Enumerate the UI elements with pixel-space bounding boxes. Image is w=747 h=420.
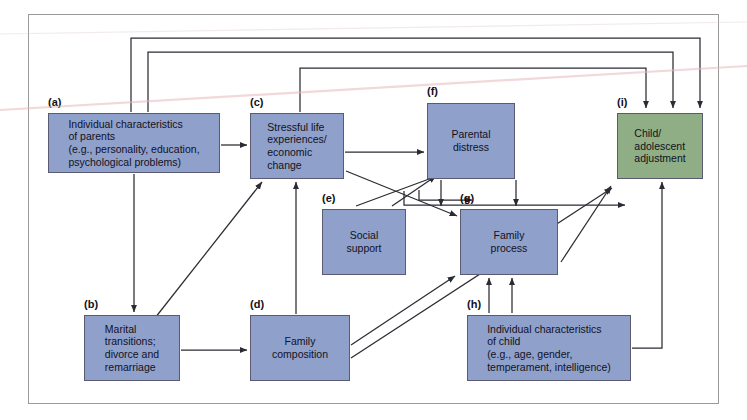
node-i[interactable]: Child/ adolescent adjustment bbox=[617, 113, 703, 179]
node-f[interactable]: Parental distress bbox=[427, 103, 515, 179]
node-e[interactable]: Social support bbox=[322, 209, 406, 275]
node-f-tag: (f) bbox=[427, 85, 438, 97]
node-e-label: Social support bbox=[342, 229, 385, 254]
node-c[interactable]: Stressful life experiences/ economic cha… bbox=[250, 113, 344, 179]
node-i-label: Child/ adolescent adjustment bbox=[630, 127, 689, 165]
node-b-tag: (b) bbox=[84, 298, 98, 310]
node-c-label: Stressful life experiences/ economic cha… bbox=[263, 121, 331, 171]
node-g[interactable]: Family process bbox=[460, 209, 558, 275]
node-g-label: Family process bbox=[487, 229, 532, 254]
node-d-label: Family composition bbox=[268, 335, 332, 360]
node-d-tag: (d) bbox=[250, 298, 264, 310]
node-h[interactable]: Individual characteristics of child (e.g… bbox=[467, 315, 631, 381]
node-d[interactable]: Family composition bbox=[250, 315, 350, 381]
node-g-tag: (g) bbox=[460, 192, 474, 204]
node-i-tag: (i) bbox=[617, 96, 627, 108]
node-h-tag: (h) bbox=[467, 298, 481, 310]
node-a[interactable]: Individual characteristics of parents (e… bbox=[48, 113, 220, 173]
node-a-label: Individual characteristics of parents (e… bbox=[64, 118, 203, 168]
diagram-canvas: Individual characteristics of parents (e… bbox=[0, 0, 747, 420]
node-f-label: Parental distress bbox=[447, 128, 494, 153]
node-b-label: Marital transitions; divorce and remarri… bbox=[101, 323, 163, 373]
node-a-tag: (a) bbox=[48, 96, 61, 108]
node-c-tag: (c) bbox=[250, 96, 263, 108]
node-h-label: Individual characteristics of child (e.g… bbox=[483, 323, 615, 373]
node-b[interactable]: Marital transitions; divorce and remarri… bbox=[84, 315, 180, 381]
node-e-tag: (e) bbox=[322, 192, 335, 204]
